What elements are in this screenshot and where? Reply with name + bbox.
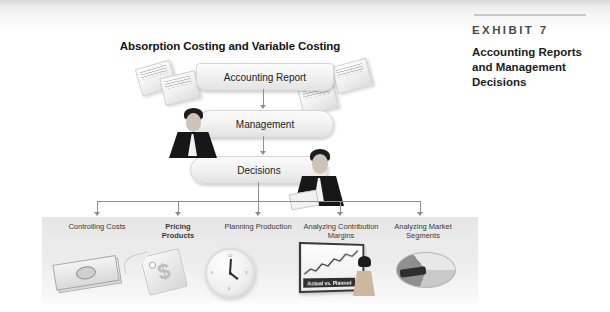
clock-icon: 12 3 6 9 bbox=[205, 248, 255, 298]
presenter-photo bbox=[352, 256, 378, 296]
branch-label-line2: Products bbox=[148, 231, 208, 240]
document-lines bbox=[164, 75, 192, 89]
exhibit-page: EXHIBIT 7 Accounting Reports and Managem… bbox=[0, 0, 610, 312]
figure-title: Absorption Costing and Variable Costing bbox=[0, 40, 460, 52]
node-management-label: Management bbox=[236, 119, 294, 130]
branch-arrow bbox=[337, 212, 343, 216]
arrow-management-to-decisions bbox=[260, 151, 266, 155]
branch-arrow bbox=[417, 212, 423, 216]
branch-arrow bbox=[255, 212, 261, 216]
clock-mark: 12 bbox=[228, 253, 232, 258]
exhibit-number: EXHIBIT 7 bbox=[472, 24, 598, 36]
exhibit-caption-panel: EXHIBIT 7 Accounting Reports and Managem… bbox=[472, 14, 598, 90]
branch-label-planning-production: Planning Production bbox=[213, 222, 303, 231]
branch-label-line1: Analyzing Contribution bbox=[296, 222, 386, 231]
branch-label-line2: Segments bbox=[385, 231, 461, 240]
node-accounting-report[interactable]: Accounting Report bbox=[196, 63, 334, 91]
clock-center-pin bbox=[229, 272, 232, 275]
connector-management-to-decisions bbox=[263, 136, 264, 152]
branch-label-pricing-products: Pricing Products bbox=[148, 222, 208, 240]
branch-label-line1: Planning Production bbox=[213, 222, 303, 231]
node-accounting-report-label: Accounting Report bbox=[224, 72, 306, 83]
node-decisions-label: Decisions bbox=[237, 165, 280, 176]
branch-label-line2: Margins bbox=[296, 231, 386, 240]
clock-minute-hand bbox=[229, 259, 232, 273]
pie-chart-icon bbox=[396, 252, 454, 296]
chart-caption: Actual vs. Planned bbox=[303, 278, 355, 288]
clock-mark: 6 bbox=[228, 286, 230, 291]
branch-label-line1: Pricing bbox=[148, 222, 208, 231]
branch-bus-line bbox=[97, 201, 421, 202]
branch-arrow bbox=[94, 212, 100, 216]
exhibit-divider bbox=[474, 14, 586, 16]
connector-decisions-to-bus bbox=[258, 182, 259, 202]
branch-arrow bbox=[175, 212, 181, 216]
clock-mark: 3 bbox=[245, 270, 247, 275]
branch-label-analyzing-contribution-margins: Analyzing Contribution Margins bbox=[296, 222, 386, 240]
bill-portrait bbox=[75, 265, 97, 281]
manager-photo bbox=[167, 106, 219, 158]
connector-report-to-management bbox=[263, 89, 264, 106]
branch-label-line1: Analyzing Market bbox=[385, 222, 461, 231]
branch-label-line1: Controlling Costs bbox=[57, 222, 137, 231]
report-document-icon bbox=[331, 58, 373, 94]
exhibit-title: Accounting Reports and Management Decisi… bbox=[472, 45, 598, 90]
document-lines bbox=[336, 63, 364, 78]
branch-label-analyzing-market-segments: Analyzing Market Segments bbox=[385, 222, 461, 240]
arrow-report-to-management bbox=[260, 105, 266, 109]
branch-label-controlling-costs: Controlling Costs bbox=[57, 222, 137, 231]
clock-mark: 9 bbox=[211, 270, 213, 275]
executive-photo bbox=[290, 148, 348, 206]
